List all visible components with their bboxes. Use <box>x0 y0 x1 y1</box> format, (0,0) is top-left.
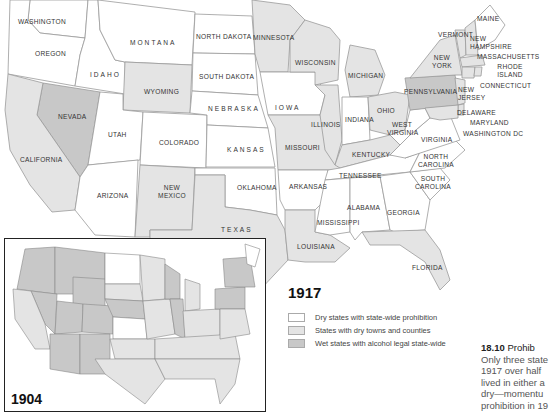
state-michigan <box>345 45 385 97</box>
label-wyoming: WYOMING <box>144 88 179 96</box>
legend-item-towns: States with dry towns and counties <box>288 324 446 336</box>
label-new-mexico: NEW MEXICO <box>158 184 186 200</box>
label-maine: MAINE <box>477 15 499 23</box>
label-michigan: MICHIGAN <box>348 72 383 80</box>
label-california: CALIFORNIA <box>20 156 63 164</box>
swatch-wet <box>288 339 305 348</box>
legend-item-dry: Dry states with state-wide prohibition <box>288 311 446 323</box>
label-louisiana: LOUISIANA <box>297 243 335 251</box>
caption-title-text: Prohib <box>507 342 534 353</box>
state-new-mexico <box>135 165 195 237</box>
label-nevada: NEVADA <box>58 113 86 121</box>
map-year-1904: 1904 <box>11 391 42 407</box>
label-delaware: DELAWARE <box>457 109 496 117</box>
label-oklahoma: OKLAHOMA <box>237 184 277 192</box>
label-texas: TEXAS <box>221 226 253 234</box>
figure-caption: 18.10 Prohib Only three state 1917 over … <box>481 342 553 411</box>
caption-line: lived in either a <box>481 377 553 389</box>
inset-map-1904: 1904 <box>4 238 266 412</box>
label-pennsylvania: PENNSYLVANIA <box>404 88 457 96</box>
label-montana: MONTANA <box>130 39 176 47</box>
inset-map-graphic <box>5 239 265 411</box>
swatch-dry <box>288 313 305 322</box>
label-west-virginia: WEST VIRGINIA <box>387 121 417 137</box>
label-alabama: ALABAMA <box>347 204 380 212</box>
legend-label: States with dry towns and counties <box>315 326 430 335</box>
label-washington-dc: WASHINGTON DC <box>463 130 523 138</box>
label-georgia: GEORGIA <box>387 209 420 217</box>
label-oregon: OREGON <box>35 50 66 58</box>
label-kansas: KANSAS <box>227 146 266 154</box>
label-missouri: MISSOURI <box>285 144 320 152</box>
label-nebraska: NEBRASKA <box>208 105 260 113</box>
caption-line: Only three state <box>481 354 553 366</box>
label-new-york: NEW YORK <box>432 54 452 70</box>
label-ohio: OHIO <box>377 107 395 115</box>
label-north-dakota: NORTH DAKOTA <box>196 33 251 41</box>
label-maryland: MARYLAND <box>470 119 509 127</box>
label-south-carolina: SOUTH CAROLINA <box>413 175 453 191</box>
caption-title: 18.10 Prohib <box>481 342 553 354</box>
label-idaho: IDAHO <box>90 71 121 79</box>
label-illinois: ILLINOIS <box>311 121 341 129</box>
label-tennessee: TENNESSEE <box>339 172 382 180</box>
label-rhode-island: RHODE ISLAND <box>496 63 524 79</box>
label-massachusetts: MASSACHUSETTS <box>477 53 540 61</box>
caption-line: prohibition in 19 <box>481 400 553 412</box>
state-montana <box>98 0 195 65</box>
legend: Dry states with state-wide prohibition S… <box>288 311 446 350</box>
label-wisconsin: WISCONSIN <box>295 59 336 67</box>
caption-line: dry—momentu <box>481 388 553 400</box>
label-mississippi: MISSISSIPPI <box>317 219 360 227</box>
label-indiana: INDIANA <box>345 116 374 124</box>
label-iowa: IOWA <box>275 104 300 112</box>
state-connecticut <box>462 67 475 78</box>
caption-line: 1917 over half <box>481 365 553 377</box>
swatch-towns <box>288 326 305 335</box>
state-maryland <box>425 105 458 120</box>
caption-number: 18.10 <box>481 342 505 353</box>
state-florida <box>362 230 450 290</box>
label-minnesota: MINNESOTA <box>253 34 294 42</box>
label-arkansas: ARKANSAS <box>289 183 327 191</box>
label-kentucky: KENTUCKY <box>352 151 390 159</box>
label-virginia: VIRGINIA <box>421 136 452 144</box>
label-south-dakota: SOUTH DAKOTA <box>199 73 254 81</box>
label-north-carolina: NORTH CAROLINA <box>416 153 456 169</box>
label-washington: WASHINGTON <box>18 18 66 26</box>
label-new-hampshire: NEW HAMPSHIRE <box>470 35 506 51</box>
label-connecticut: CONNECTICUT <box>480 82 531 90</box>
state-rhode-island <box>474 67 482 76</box>
legend-item-wet: Wet states with alcohol legal state-wide <box>288 337 446 349</box>
label-arizona: ARIZONA <box>97 192 128 200</box>
label-colorado: COLORADO <box>159 139 199 147</box>
legend-label: Dry states with state-wide prohibition <box>315 313 437 322</box>
map-year-1917: 1917 <box>288 284 321 301</box>
label-utah: UTAH <box>108 131 127 139</box>
label-new-jersey: NEW JERSEY <box>458 86 480 102</box>
label-vermont: VERMONT <box>438 31 473 39</box>
label-florida: FLORIDA <box>412 264 443 272</box>
legend-label: Wet states with alcohol legal state-wide <box>315 339 446 348</box>
